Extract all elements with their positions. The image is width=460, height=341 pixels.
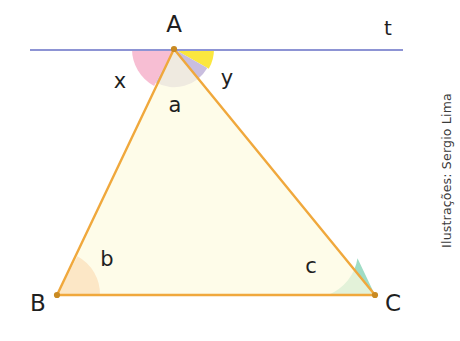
geometry-diagram: A B C t x a y b c [0, 0, 460, 341]
angle-label-x: x [114, 69, 126, 93]
angle-label-b: b [100, 247, 113, 271]
vertex-label-c: C [385, 290, 401, 316]
vertex-dot-c [372, 292, 378, 298]
angle-label-c: c [305, 254, 317, 278]
vertex-label-a: A [166, 11, 182, 37]
angle-label-a: a [169, 93, 182, 117]
vertex-dot-b [54, 292, 60, 298]
vertex-dot-a [171, 46, 177, 52]
vertex-label-b: B [30, 290, 46, 316]
angle-label-y: y [221, 66, 233, 90]
line-label-t: t [384, 16, 392, 40]
